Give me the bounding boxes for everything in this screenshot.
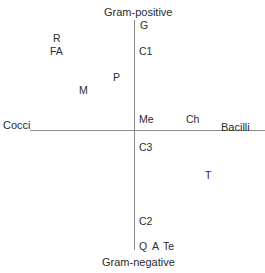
point-label-q: Q [139,241,147,252]
point-label-me: Me [139,114,154,125]
point-label-a: A [152,241,159,252]
point-label-ch: Ch [186,114,199,125]
point-label-g: G [140,20,148,31]
point-label-m: M [79,85,88,96]
axis-label-cocci: Cocci [3,120,31,131]
axis-label-gram-positive: Gram-positive [104,7,172,18]
point-label-c3: C3 [139,142,152,153]
point-label-p: P [113,72,120,83]
axis-label-gram-negative: Gram-negative [102,257,175,268]
point-label-fa: FA [50,46,63,57]
point-label-te: Te [163,241,174,252]
axis-label-bacilli: Bacilli [221,122,250,133]
point-label-r: R [53,33,61,44]
point-label-c2: C2 [139,216,152,227]
point-label-c1: C1 [139,46,152,57]
quadrant-diagram: Gram-positive Gram-negative Cocci Bacill… [0,0,265,273]
point-label-t: T [205,170,211,181]
vertical-axis-line [134,20,135,250]
